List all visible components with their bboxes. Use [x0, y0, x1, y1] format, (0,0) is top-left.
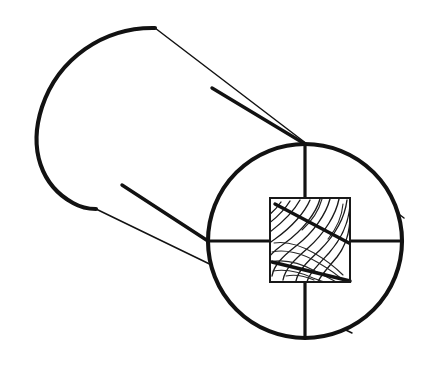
- figure-canvas: [0, 0, 431, 374]
- log-cross-section-drawing: [0, 0, 431, 374]
